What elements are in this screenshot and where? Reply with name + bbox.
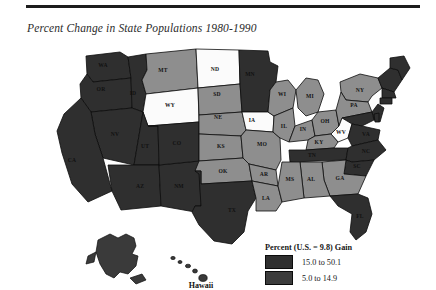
state-label-NE: NE [214, 114, 222, 120]
state-label-AR: AR [260, 171, 269, 177]
state-label-NM: NM [174, 183, 184, 189]
state-label-WY: WY [165, 102, 175, 108]
state-label-NV: NV [111, 131, 119, 137]
state-label-KS: KS [217, 143, 225, 149]
alaska-inset[interactable] [86, 234, 146, 284]
state-label-OR: OR [97, 86, 107, 92]
state-label-MT: MT [158, 67, 167, 73]
state-label-AZ: AZ [136, 183, 144, 189]
alaska-peninsula-shape [86, 252, 96, 264]
state-label-TX: TX [228, 207, 236, 213]
state-label-OK: OK [218, 168, 228, 174]
alaska-panhandle-shape [130, 274, 146, 284]
state-label-MO: MO [257, 141, 267, 147]
state-label-IN: IN [300, 126, 307, 132]
hawaii-inset[interactable]: Hawaii [171, 256, 214, 290]
state-label-NC: NC [362, 148, 370, 154]
state-label-GA: GA [336, 175, 345, 181]
state-label-SD: SD [213, 91, 221, 97]
state-CT[interactable] [380, 98, 392, 104]
state-label-WA: WA [98, 62, 107, 68]
state-MS[interactable] [278, 162, 304, 202]
legend-item-mid[interactable]: 5.0 to 14.9 [265, 271, 430, 285]
legend: Percent (U.S. = 9.8) Gain 15.0 to 50.1 5… [265, 243, 430, 285]
state-IA[interactable] [242, 112, 274, 132]
legend-label-mid: 5.0 to 14.9 [302, 274, 337, 283]
state-DE[interactable] [374, 113, 379, 122]
state-label-LA: LA [262, 195, 270, 201]
hawaii-island-molokai [185, 264, 190, 268]
state-label-UT: UT [141, 143, 149, 149]
state-label-CO: CO [173, 140, 182, 146]
alaska-shape[interactable] [96, 234, 138, 278]
state-label-WV: WV [336, 129, 346, 135]
header-rule [26, 5, 420, 8]
state-label-TN: TN [308, 152, 316, 158]
state-label-ID: ID [130, 90, 137, 96]
legend-swatch-high [265, 255, 293, 269]
state-label-ND: ND [211, 66, 219, 72]
hawaii-label: Hawaii [189, 281, 214, 290]
state-MT[interactable] [142, 49, 198, 94]
state-AZ[interactable] [108, 165, 161, 210]
state-label-WI: WI [278, 91, 286, 97]
legend-swatch-mid [265, 271, 293, 285]
state-label-VA: VA [362, 131, 370, 137]
state-label-KY: KY [315, 139, 324, 145]
state-WA[interactable] [86, 52, 131, 82]
hawaii-island-maui [193, 269, 198, 273]
hawaii-island-kauai [171, 256, 175, 259]
state-label-MS: MS [286, 176, 295, 182]
state-NE[interactable] [199, 112, 246, 136]
state-label-PA: PA [350, 102, 357, 108]
state-label-SC: SC [353, 163, 361, 169]
state-label-IA: IA [249, 117, 256, 123]
state-label-MN: MN [245, 71, 255, 77]
state-label-NY: NY [356, 87, 364, 93]
state-label-OH: OH [320, 118, 330, 124]
legend-label-high: 15.0 to 50.1 [302, 258, 341, 267]
state-label-IL: IL [281, 123, 287, 129]
hawaii-island-oahu [178, 261, 182, 264]
legend-item-high[interactable]: 15.0 to 50.1 [265, 255, 430, 269]
state-label-MI: MI [306, 93, 314, 99]
state-label-FL: FL [356, 213, 364, 219]
state-label-AL: AL [307, 176, 315, 182]
state-SD[interactable] [198, 84, 242, 115]
state-label-CA: CA [68, 157, 76, 163]
legend-title: Percent (U.S. = 9.8) Gain [265, 243, 430, 252]
state-TN[interactable] [289, 148, 348, 162]
state-FL[interactable] [330, 194, 372, 240]
page-title: Percent Change in State Populations 1980… [27, 22, 257, 34]
